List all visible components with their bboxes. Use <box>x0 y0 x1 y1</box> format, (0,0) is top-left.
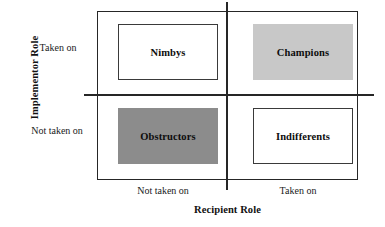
quadrant-obstructors: Obstructors <box>118 108 218 164</box>
x-axis-title: Recipient Role <box>97 204 358 215</box>
quadrant-label-champions: Champions <box>277 47 329 58</box>
quadrant-label-obstructors: Obstructors <box>140 131 195 142</box>
horizontal-axis-line <box>84 94 374 96</box>
x-axis-tick-label-right: Taken on <box>243 185 353 196</box>
quadrant-champions: Champions <box>253 24 353 80</box>
y-axis-tick-label-top: Taken on <box>24 42 92 53</box>
quadrant-label-indifferents: Indifferents <box>276 131 330 142</box>
matrix-diagram: Implementor Role Taken on Not taken on N… <box>0 0 385 227</box>
y-axis-tick-label-bottom: Not taken on <box>14 125 100 136</box>
quadrant-indifferents: Indifferents <box>253 108 353 164</box>
x-axis-tick-label-left: Not taken on <box>108 185 218 196</box>
quadrant-label-nimbys: Nimbys <box>150 47 185 58</box>
quadrant-nimbys: Nimbys <box>118 24 218 80</box>
vertical-axis-line <box>226 2 228 190</box>
